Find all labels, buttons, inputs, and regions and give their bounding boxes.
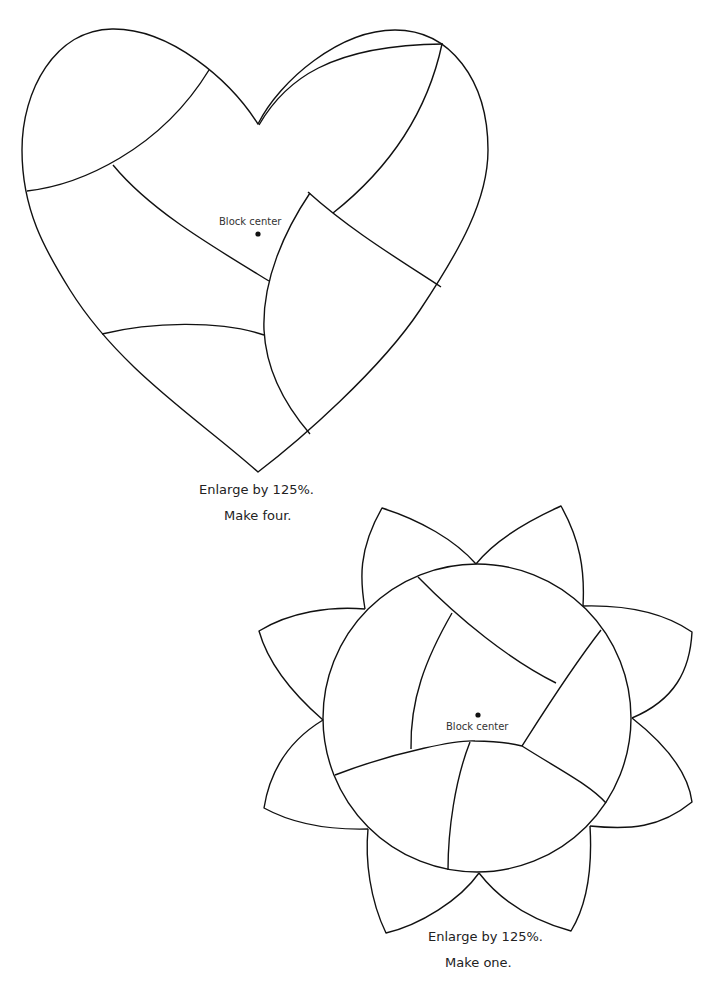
heart-outline [22,29,488,472]
flower-center-dot [475,712,480,717]
heart-seam-6 [308,192,441,287]
flower-block-center-label: Block center [446,721,508,732]
heart-block-center-label: Block center [219,216,281,227]
heart-caption-enlarge: Enlarge by 125%. [199,482,314,497]
flower-petal [479,826,591,931]
heart-seam-5 [264,193,310,434]
heart-seam-1 [27,70,209,191]
flower-petal [590,718,692,828]
flower-petal [583,606,692,718]
flower-seam-4 [335,741,522,775]
flower-petal [476,506,583,606]
flower-petal [259,608,365,720]
heart-center-dot [255,231,260,236]
flower-seam-3 [522,630,601,746]
heart-caption-quantity: Make four. [224,508,291,523]
flower-seam-5 [448,742,470,870]
flower-seam-1 [418,577,556,683]
flower-pattern [259,506,692,933]
pattern-canvas [0,0,720,988]
flower-caption-quantity: Make one. [445,955,512,970]
flower-petal [362,508,476,609]
flower-petal [367,829,479,933]
flower-seam-6 [522,746,606,803]
heart-seam-7 [102,324,264,335]
flower-caption-enlarge: Enlarge by 125%. [428,929,543,944]
flower-center-circle [323,564,631,872]
heart-seam-4 [333,44,442,213]
heart-pattern [22,29,488,472]
flower-petal [264,720,368,829]
